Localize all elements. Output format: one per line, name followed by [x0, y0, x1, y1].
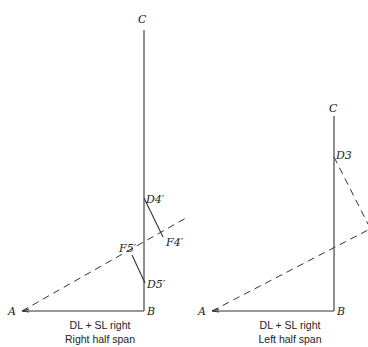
label-b: B — [336, 305, 345, 318]
caption-line-2: Right half span — [65, 333, 135, 345]
label-c: C — [329, 102, 338, 115]
diagram-left-half-span: C A B D3 DL + SL right Left half span — [197, 102, 368, 345]
label-f4: F4′ — [165, 236, 184, 249]
label-d3: D3 — [335, 149, 352, 162]
label-f5: F5′ — [118, 242, 137, 255]
label-b: B — [146, 305, 155, 318]
label-d4: D4′ — [145, 193, 165, 206]
label-a: A — [7, 305, 16, 318]
label-a: A — [197, 305, 206, 318]
caption-line-1: DL + SL right — [260, 319, 321, 331]
caption-line-1: DL + SL right — [70, 319, 131, 331]
williot-diagrams: C A B D4′ F4′ F5′ D5′ DL + SL right Righ… — [0, 0, 368, 347]
diagram-right-half-span: C A B D4′ F4′ F5′ D5′ DL + SL right Righ… — [7, 13, 186, 345]
label-d5: D5′ — [146, 278, 166, 291]
segment-f5-d5 — [132, 255, 145, 283]
caption-line-2: Left half span — [258, 333, 321, 345]
label-c: C — [138, 13, 147, 26]
dashed-reference-line — [212, 230, 368, 311]
dashed-reference-line — [22, 218, 186, 311]
dashed-segment-d3 — [334, 157, 368, 224]
